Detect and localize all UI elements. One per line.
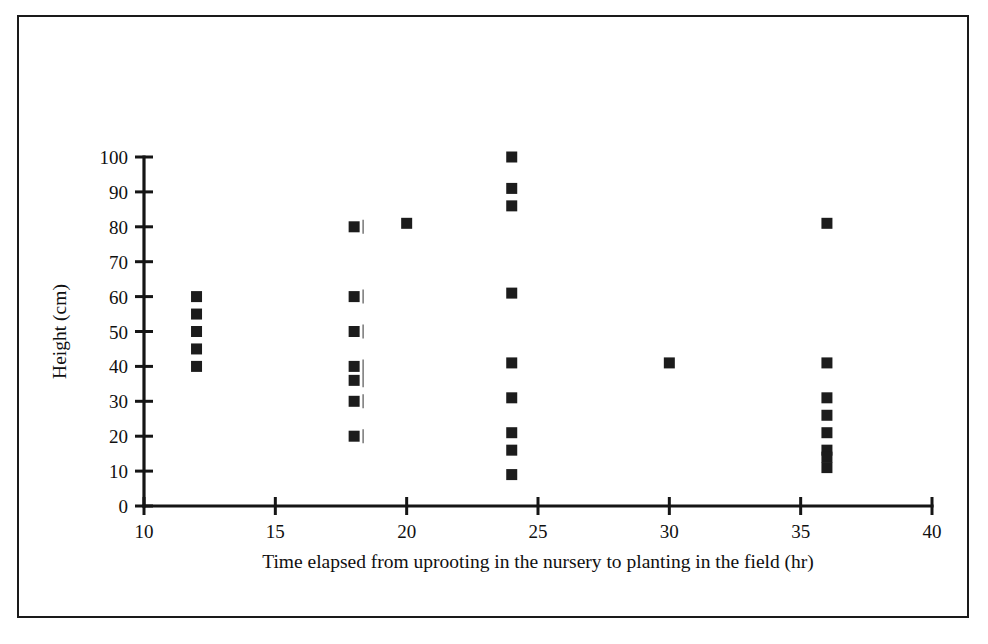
x-tick-label: 20 <box>397 521 416 542</box>
data-point <box>821 218 832 229</box>
x-tick-label: 35 <box>791 521 810 542</box>
y-tick-label: 100 <box>100 147 129 168</box>
data-point <box>191 291 202 302</box>
y-axis: 0102030405060708090100 <box>100 147 154 517</box>
x-axis: 10152025303540 <box>135 497 942 542</box>
y-tick-label: 30 <box>109 391 128 412</box>
x-tick-label: 30 <box>660 521 679 542</box>
data-point <box>821 427 832 438</box>
data-point <box>349 361 360 372</box>
data-point <box>664 357 675 368</box>
data-point <box>349 326 360 337</box>
data-point <box>506 469 517 480</box>
y-axis-title: Height (cm) <box>49 284 71 379</box>
data-point <box>821 410 832 421</box>
y-tick-label: 10 <box>109 461 128 482</box>
data-markers <box>191 152 832 481</box>
data-point <box>506 445 517 456</box>
data-point <box>349 291 360 302</box>
y-tick-label: 0 <box>119 496 129 517</box>
data-point <box>349 396 360 407</box>
scatter-plot: 0102030405060708090100 10152025303540 Ti… <box>0 0 988 644</box>
data-point <box>506 288 517 299</box>
y-tick-label: 20 <box>109 426 128 447</box>
x-tick-label: 10 <box>135 521 154 542</box>
y-tick-label: 50 <box>109 322 128 343</box>
data-point <box>191 326 202 337</box>
x-tick-label: 40 <box>923 521 942 542</box>
data-point <box>506 183 517 194</box>
data-point <box>349 221 360 232</box>
data-point <box>506 200 517 211</box>
data-point <box>506 152 517 163</box>
data-point <box>349 375 360 386</box>
data-point <box>506 427 517 438</box>
y-tick-label: 70 <box>109 252 128 273</box>
data-point <box>821 452 832 463</box>
data-point <box>349 431 360 442</box>
data-point <box>821 462 832 473</box>
data-point <box>821 392 832 403</box>
data-point <box>191 309 202 320</box>
data-point <box>506 357 517 368</box>
y-tick-label: 80 <box>109 217 128 238</box>
x-tick-label: 15 <box>266 521 285 542</box>
data-point <box>821 357 832 368</box>
data-point <box>506 392 517 403</box>
x-axis-title: Time elapsed from uprooting in the nurse… <box>262 551 814 573</box>
y-tick-label: 90 <box>109 182 128 203</box>
y-tick-label: 40 <box>109 356 128 377</box>
data-point <box>401 218 412 229</box>
x-tick-label: 25 <box>529 521 548 542</box>
y-tick-label: 60 <box>109 287 128 308</box>
data-point <box>191 343 202 354</box>
data-point <box>191 361 202 372</box>
